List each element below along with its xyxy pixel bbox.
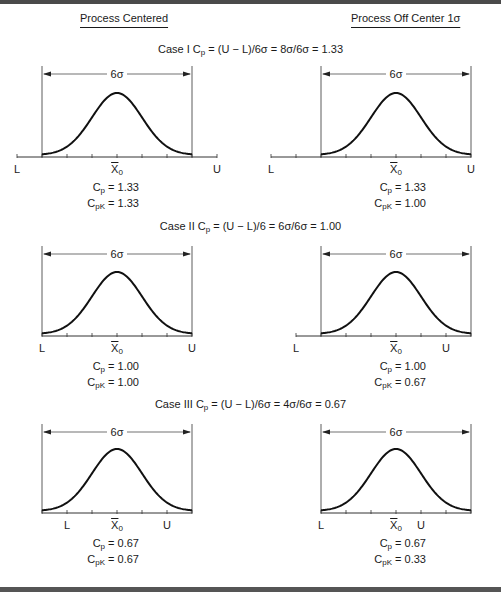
case-title-formula: = (U − L)/6σ = 4σ/6σ = 0.67 xyxy=(208,398,346,410)
cpk-value: CpK = 1.00 xyxy=(77,376,139,392)
panel-case2-off-center: 6σ xyxy=(296,246,471,337)
panel-case1-centered: 6σ xyxy=(17,66,217,158)
upper-spec-label: U xyxy=(188,342,196,354)
lower-spec-label: L xyxy=(64,519,70,531)
six-sigma-label: 6σ xyxy=(390,426,403,438)
process-mean-label: X0 xyxy=(111,519,123,533)
arrowhead-left-icon xyxy=(322,252,330,257)
arrowhead-right-icon xyxy=(183,430,191,435)
normal-distribution-curve xyxy=(42,272,192,333)
arrowhead-right-icon xyxy=(462,252,470,257)
six-sigma-label: 6σ xyxy=(111,248,124,260)
cpk-value: CpK = 0.67 xyxy=(77,553,139,569)
lower-spec-label: L xyxy=(268,163,274,175)
lower-spec-label: L xyxy=(14,163,20,175)
arrowhead-left-icon xyxy=(43,72,51,77)
case-title-prefix: Case I C xyxy=(158,43,201,55)
case-title: Case I Cp = (U − L)/6σ = 8σ/6σ = 1.33 xyxy=(0,43,501,57)
upper-spec-label: U xyxy=(467,163,475,175)
cp-value: Cp = 1.00 xyxy=(356,360,426,376)
capability-stats: Cp = 1.00CpK = 1.00 xyxy=(77,360,139,392)
process-mean-label: X0 xyxy=(390,163,402,177)
bottom-border xyxy=(0,587,501,592)
process-mean-label: X0 xyxy=(111,163,123,177)
arrowhead-left-icon xyxy=(322,72,330,77)
capability-stats: Cp = 1.00CpK = 0.67 xyxy=(356,360,426,392)
normal-distribution-curve xyxy=(42,449,192,510)
panel-case2-centered: 6σ xyxy=(42,246,192,337)
six-sigma-label: 6σ xyxy=(111,426,124,438)
case-title-prefix: Case II C xyxy=(160,220,206,232)
normal-distribution-curve xyxy=(321,272,471,333)
cp-value: Cp = 1.33 xyxy=(77,181,139,197)
arrowhead-right-icon xyxy=(462,430,470,435)
diagram-canvas: 6σ6σ6σ6σ6σ6σ xyxy=(0,0,501,595)
case-title-formula: = (U − L)/6 = 6σ/6σ = 1.00 xyxy=(210,220,341,232)
lower-spec-label: L xyxy=(318,519,324,531)
cp-value: Cp = 0.67 xyxy=(77,537,139,553)
upper-spec-label: U xyxy=(213,163,221,175)
process-mean-label: X0 xyxy=(390,342,402,356)
case-title: Case III Cp = (U − L)/6σ = 4σ/6σ = 0.67 xyxy=(0,398,501,412)
panel-case3-off-center: 6σ xyxy=(321,424,471,514)
lower-spec-label: L xyxy=(293,342,299,354)
cp-value: Cp = 1.33 xyxy=(356,181,426,197)
case-title: Case II Cp = (U − L)/6 = 6σ/6σ = 1.00 xyxy=(0,220,501,234)
panel-case1-off-center: 6σ xyxy=(271,66,471,158)
cp-value: Cp = 0.67 xyxy=(356,537,426,553)
normal-distribution-curve xyxy=(321,449,471,510)
cp-value: Cp = 1.00 xyxy=(77,360,139,376)
upper-spec-label: U xyxy=(417,519,425,531)
six-sigma-label: 6σ xyxy=(390,68,403,80)
upper-spec-label: U xyxy=(442,342,450,354)
six-sigma-label: 6σ xyxy=(390,248,403,260)
normal-distribution-curve xyxy=(42,93,192,154)
capability-stats: Cp = 1.33CpK = 1.33 xyxy=(77,181,139,213)
arrowhead-left-icon xyxy=(43,430,51,435)
capability-stats: Cp = 0.67CpK = 0.67 xyxy=(77,537,139,569)
panel-case3-centered: 6σ xyxy=(42,424,192,514)
process-mean-label: X0 xyxy=(111,342,123,356)
case-title-formula: = (U − L)/6σ = 8σ/6σ = 1.33 xyxy=(205,43,343,55)
arrowhead-right-icon xyxy=(462,72,470,77)
arrowhead-left-icon xyxy=(322,430,330,435)
cpk-value: CpK = 0.67 xyxy=(356,376,426,392)
arrowhead-right-icon xyxy=(183,72,191,77)
cpk-value: CpK = 0.33 xyxy=(356,553,426,569)
process-mean-label: X0 xyxy=(390,519,402,533)
capability-stats: Cp = 0.67CpK = 0.33 xyxy=(356,537,426,569)
case-title-prefix: Case III C xyxy=(155,398,204,410)
arrowhead-right-icon xyxy=(183,252,191,257)
cpk-value: CpK = 1.00 xyxy=(356,197,426,213)
arrowhead-left-icon xyxy=(43,252,51,257)
six-sigma-label: 6σ xyxy=(111,68,124,80)
capability-stats: Cp = 1.33CpK = 1.00 xyxy=(356,181,426,213)
normal-distribution-curve xyxy=(321,93,471,154)
cpk-value: CpK = 1.33 xyxy=(77,197,139,213)
lower-spec-label: L xyxy=(39,342,45,354)
upper-spec-label: U xyxy=(163,519,171,531)
